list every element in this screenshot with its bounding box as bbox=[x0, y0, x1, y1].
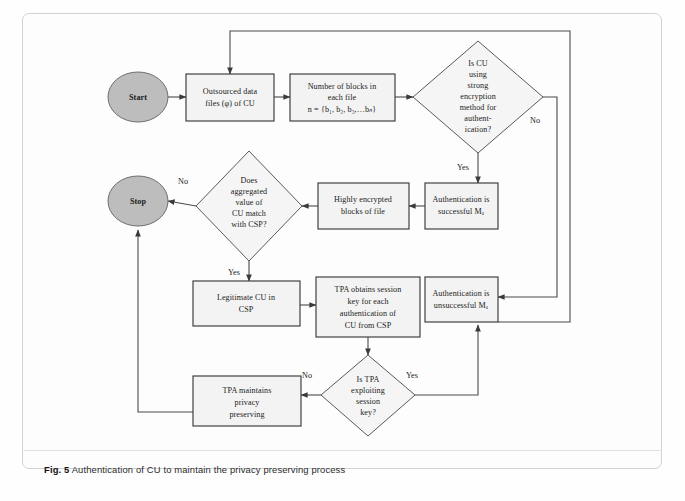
tpa-session-line-3: authentication of bbox=[340, 309, 397, 318]
is-strong-line-7: ication? bbox=[465, 125, 492, 134]
aggregated-line-1: Does bbox=[240, 176, 257, 185]
edge-label-exploit-yes: Yes bbox=[406, 371, 418, 380]
edge-aggregated-no-to-stop bbox=[168, 201, 196, 206]
node-start[interactable]: Start bbox=[108, 72, 168, 122]
tpa-session-line-2: key for each bbox=[347, 297, 388, 306]
node-highly-encrypted-blocks[interactable]: Highly encrypted blocks of file bbox=[318, 183, 409, 229]
auth-ok-line-2: successful Mₐ bbox=[438, 207, 485, 216]
tpa-session-line-4: CU from CSP bbox=[345, 321, 392, 330]
auth-fail-line-1: Authentication is bbox=[432, 289, 489, 298]
legit-shape bbox=[193, 281, 300, 326]
is-strong-line-3: strong bbox=[468, 81, 489, 90]
node-tpa-maintains-privacy[interactable]: TPA maintains privacy preserving bbox=[193, 376, 301, 426]
outsourced-line-1: Outsourced data bbox=[203, 87, 258, 96]
blocks-line-2: each file bbox=[328, 93, 357, 102]
figure-caption: Fig. 5 Authentication of CU to maintain … bbox=[22, 450, 662, 488]
edge-label-aggregated-no: No bbox=[178, 177, 188, 186]
caption-body: Authentication of CU to maintain the pri… bbox=[72, 464, 346, 475]
figure-container: Yes No No Yes No Yes Start Outsourced da… bbox=[0, 0, 685, 501]
node-authentication-successful[interactable]: Authentication is successful Mₐ bbox=[425, 183, 498, 229]
edge-label-layer: Yes No No Yes No Yes bbox=[178, 116, 540, 380]
edge-label-strong-yes: Yes bbox=[457, 163, 469, 172]
is-strong-line-1: Is CU bbox=[468, 59, 488, 68]
start-label: Start bbox=[129, 93, 147, 102]
node-tpa-obtains-session-key[interactable]: TPA obtains session key for each authent… bbox=[316, 277, 420, 337]
tpa-session-line-1: TPA obtains session bbox=[335, 285, 402, 294]
highly-enc-line-1: Highly encrypted bbox=[334, 195, 392, 204]
outsourced-shape bbox=[186, 74, 274, 121]
node-is-cu-strong-encryption[interactable]: Is CU using strong encryption method for… bbox=[413, 41, 543, 153]
auth-fail-shape bbox=[425, 277, 498, 322]
is-strong-line-5: method for bbox=[460, 103, 497, 112]
node-stop[interactable]: Stop bbox=[108, 176, 168, 226]
auth-ok-line-1: Authentication is bbox=[432, 195, 489, 204]
blocks-line-3: n = {b₁, b₂, b₃,…bₙ} bbox=[308, 105, 376, 114]
node-does-aggregated-match[interactable]: Does aggregated value of CU match with C… bbox=[196, 151, 302, 261]
node-outsourced-data[interactable]: Outsourced data files (φ) of CU bbox=[186, 74, 274, 121]
edge-label-aggregated-yes: Yes bbox=[228, 268, 240, 277]
is-exploit-line-4: key? bbox=[360, 408, 376, 417]
highly-enc-line-2: blocks of file bbox=[341, 207, 385, 216]
is-strong-line-2: using bbox=[469, 70, 487, 79]
legit-line-1: Legitimate CU in bbox=[217, 293, 275, 302]
is-exploit-line-2: exploiting bbox=[351, 386, 385, 395]
is-exploit-shape bbox=[321, 355, 415, 436]
edge-label-exploit-no: No bbox=[302, 371, 312, 380]
blocks-line-1: Number of blocks in bbox=[308, 82, 377, 91]
is-strong-line-6: authent- bbox=[464, 114, 492, 123]
node-legitimate-cu[interactable]: Legitimate CU in CSP bbox=[193, 281, 300, 326]
node-authentication-unsuccessful[interactable]: Authentication is unsuccessful Mₐ bbox=[425, 277, 498, 322]
tpa-privacy-line-1: TPA maintains bbox=[223, 386, 272, 395]
node-is-tpa-exploiting[interactable]: Is TPA exploiting session key? bbox=[321, 355, 415, 436]
edge-tpa-privacy-to-stop bbox=[138, 230, 193, 412]
aggregated-line-5: with CSP? bbox=[231, 220, 267, 229]
edge-label-strong-no: No bbox=[530, 116, 540, 125]
stop-label: Stop bbox=[130, 197, 147, 206]
auth-ok-shape bbox=[425, 183, 498, 229]
node-number-of-blocks[interactable]: Number of blocks in each file n = {b₁, b… bbox=[290, 74, 395, 121]
auth-fail-line-2: unsuccessful Mₐ bbox=[434, 301, 489, 310]
is-exploit-line-1: Is TPA bbox=[357, 375, 380, 384]
legit-line-2: CSP bbox=[239, 305, 254, 314]
highly-enc-shape bbox=[318, 183, 409, 229]
aggregated-line-3: value of bbox=[235, 198, 262, 207]
edge-is-exploit-yes-to-auth-fail bbox=[415, 325, 478, 395]
outsourced-line-2: files (φ) of CU bbox=[205, 99, 255, 108]
tpa-privacy-line-3: preserving bbox=[229, 410, 264, 419]
aggregated-line-4: CU match bbox=[232, 209, 266, 218]
aggregated-line-2: aggregated bbox=[231, 187, 268, 196]
caption-text-wrap: Fig. 5 Authentication of CU to maintain … bbox=[44, 464, 345, 475]
is-exploit-line-3: session bbox=[356, 397, 380, 406]
caption-figure-number: Fig. 5 bbox=[44, 464, 69, 475]
is-strong-line-4: encryption bbox=[460, 92, 496, 101]
flowchart-diagram: Yes No No Yes No Yes Start Outsourced da… bbox=[0, 0, 685, 470]
tpa-privacy-line-2: privacy bbox=[235, 398, 261, 407]
